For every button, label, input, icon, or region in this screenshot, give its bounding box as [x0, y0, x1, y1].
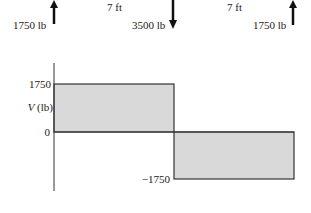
- load-label-right: 1750 lb: [253, 19, 286, 31]
- load-arrow-right-up-icon: [289, 0, 297, 25]
- negative-shear-region: [174, 132, 294, 179]
- span-label-right: 7 ft: [227, 1, 242, 13]
- y-axis-label: V (lb): [28, 101, 53, 113]
- tick-label-bottom: −1750: [142, 173, 170, 185]
- span-label-left: 7 ft: [107, 1, 122, 13]
- load-arrow-center-down-icon: [169, 0, 177, 29]
- load-label-center: 3500 lb: [132, 19, 165, 31]
- load-arrow-left-up-icon: [50, 0, 58, 24]
- positive-shear-region: [54, 84, 174, 132]
- tick-label-zero: 0: [45, 126, 51, 138]
- tick-label-top: 1750: [29, 78, 51, 90]
- load-label-left: 1750 lb: [13, 19, 46, 31]
